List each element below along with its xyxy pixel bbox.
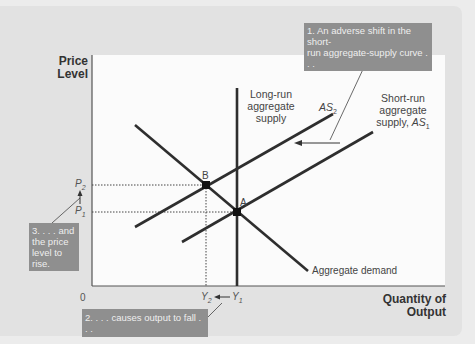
as1-curve	[182, 132, 373, 242]
callout2-leader	[207, 303, 222, 318]
shift-arrowhead-icon	[294, 140, 302, 146]
p2-sub: 2	[82, 184, 86, 191]
y1-text: Y	[232, 291, 239, 302]
point-a-label: A	[240, 197, 247, 208]
lras-label-line2: aggregate	[245, 100, 297, 112]
lras-label: Long-run aggregate supply	[245, 88, 297, 124]
y1-tick: Y1	[232, 291, 243, 304]
callout-step3-line2: the price	[32, 236, 76, 247]
y2-sub: 2	[208, 297, 212, 304]
y2-text: Y	[201, 291, 208, 302]
p2-tick: P2	[75, 178, 86, 191]
y2-tick: Y2	[201, 291, 212, 304]
p1-sub: 1	[82, 211, 86, 218]
sras-label: Short-run aggregate supply, AS1	[370, 92, 436, 133]
p1-text: P	[75, 205, 82, 216]
sras-label-line3: supply, AS1	[370, 116, 436, 133]
x-axis-title: Quantity of Output	[370, 293, 446, 319]
y-title-line2: Level	[40, 68, 88, 81]
callout-step3-line1: 3. . . . and	[32, 225, 76, 236]
origin-label: 0	[80, 292, 86, 303]
sras-label-text: supply,	[376, 116, 411, 128]
callout-step2: 2. . . . causes output to fall . . .	[82, 309, 208, 337]
sras-label-line2: aggregate	[370, 104, 436, 116]
callout-step1-line2: run aggregate-supply curve . . .	[307, 47, 429, 69]
lras-label-line1: Long-run	[245, 88, 297, 100]
lras-label-line3: supply	[245, 112, 297, 124]
p1-tick: P1	[75, 205, 86, 218]
point-b-label: B	[202, 170, 209, 181]
point-a-marker	[233, 208, 241, 216]
as2-label: AS2	[316, 101, 340, 118]
y1-sub: 1	[239, 297, 243, 304]
as2-label-sub: 2	[333, 108, 337, 115]
callout-step3: 3. . . . and the price level to rise.	[29, 223, 79, 271]
y-axis-title: Price Level	[40, 55, 88, 81]
callout-step1: 1. An adverse shift in the short- run ag…	[304, 23, 432, 71]
sras-label-line1: Short-run	[370, 92, 436, 104]
p2-text: P	[75, 178, 82, 189]
as2-label-text: AS	[319, 101, 333, 113]
callout-step3-line3: level to rise.	[32, 247, 76, 269]
sras-as-sub: 1	[426, 123, 430, 130]
ad-label: Aggregate demand	[312, 265, 397, 277]
ad-curve	[135, 125, 308, 271]
callout-step1-line1: 1. An adverse shift in the short-	[307, 25, 429, 47]
x-title-line2: Output	[370, 306, 446, 319]
point-b-marker	[202, 181, 210, 189]
output-fall-arrowhead-icon	[214, 295, 220, 300]
sras-as-text: AS	[412, 116, 426, 128]
